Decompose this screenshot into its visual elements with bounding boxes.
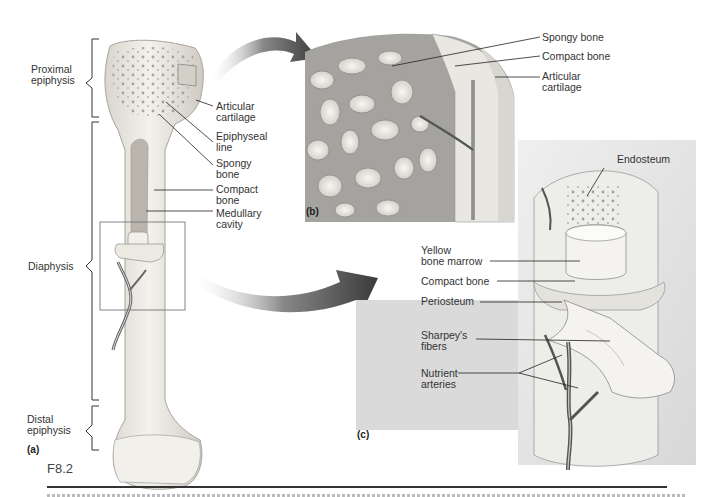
label-c-periosteum: Periosteum	[421, 296, 474, 307]
label-c-nutrient-arteries: Nutrient arteries	[421, 368, 458, 390]
figure-number: F8.2	[47, 461, 73, 476]
label-b-articular-cartilage: Articular cartilage	[542, 71, 582, 93]
label-a-articular-cartilage: Articular cartilage	[216, 101, 256, 123]
label-c-endosteum: Endosteum	[617, 154, 670, 165]
arrow-to-panel-b	[208, 32, 318, 90]
label-c-yellow-bone-marrow: Yellow bone marrow	[421, 245, 482, 267]
region-brackets	[86, 39, 99, 450]
diagram-artwork	[0, 0, 715, 497]
arrow-to-panel-c	[188, 268, 378, 312]
long-bone-illustration	[100, 40, 203, 489]
caption-rule	[47, 486, 667, 488]
panel-tag-c: (c)	[357, 429, 369, 440]
label-proximal-epiphysis: Proximal epiphysis	[31, 64, 75, 86]
panel-tag-b: (b)	[306, 206, 319, 217]
label-b-spongy-bone: Spongy bone	[542, 32, 604, 43]
spongy-bone-block	[305, 34, 514, 222]
label-diaphysis: Diaphysis	[28, 261, 74, 272]
label-c-sharpeys-fibers: Sharpey's fibers	[421, 330, 467, 352]
label-a-compact-bone: Compact bone	[216, 184, 258, 206]
label-a-medullary-cavity: Medullary cavity	[216, 208, 262, 230]
label-b-compact-bone: Compact bone	[542, 51, 610, 62]
label-distal-epiphysis: Distal epiphysis	[27, 414, 71, 436]
label-c-compact-bone: Compact bone	[421, 276, 489, 287]
label-a-epiphyseal-line: Epiphyseal line	[216, 131, 267, 153]
label-a-spongy-bone: Spongy bone	[216, 158, 252, 180]
panel-tag-a: (a)	[27, 444, 39, 455]
